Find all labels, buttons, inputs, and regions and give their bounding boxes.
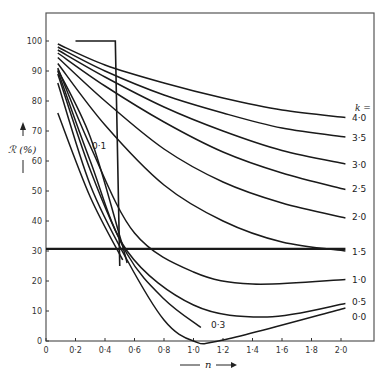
x-tick-label: 1·4 xyxy=(246,346,259,355)
x-tick-label: 0·6 xyxy=(128,346,141,355)
x-tick-label: 2·0 xyxy=(335,346,348,355)
curve-label-k01: 0·1 xyxy=(92,141,106,151)
curve-label-k00: 0·0 xyxy=(352,312,367,322)
x-tick-label: 0·2 xyxy=(69,346,82,355)
curve-label-k25: 2·5 xyxy=(352,184,366,194)
curve-k-1-0 xyxy=(58,68,346,284)
curve-labels: k = 4·0 3·5 3·0 2·5 2·0 1·5 1·0 0·5 0·0 … xyxy=(92,103,371,330)
curve-label-k10: 1·0 xyxy=(352,275,367,285)
x-axis-title: n xyxy=(205,359,211,370)
y-axis-arrow-icon xyxy=(20,122,26,130)
x-tick-label: 1·6 xyxy=(276,346,289,355)
curve-label-k35: 3·5 xyxy=(352,133,366,143)
k-header-label: k = xyxy=(355,103,371,113)
x-tick-label: 0·8 xyxy=(158,346,171,355)
x-tick-label: 0·4 xyxy=(99,346,112,355)
curve-group xyxy=(58,44,346,344)
x-tick-label: 0 xyxy=(43,346,48,355)
x-axis-arrow-icon xyxy=(231,362,237,368)
x-tick-label: 1·0 xyxy=(187,346,200,355)
curve-k-1-5 xyxy=(58,64,346,252)
y-tick-label: 20 xyxy=(32,277,42,286)
curve-label-k30: 3·0 xyxy=(352,160,367,170)
x-tick-label: 1·2 xyxy=(217,346,230,355)
chart-figure: 0 0·2 0·4 0·6 0·8 1·0 1·2 1·4 1·6 1·8 2·… xyxy=(0,0,388,374)
curve-k-0-5 xyxy=(58,71,346,317)
y-tick-label: 50 xyxy=(32,187,42,196)
curve-label-k20: 2·0 xyxy=(352,212,367,222)
curve-label-k15: 1·5 xyxy=(352,247,366,257)
y-tick-label: 90 xyxy=(32,67,42,76)
curve-label-k03: 0·3 xyxy=(211,320,225,330)
y-tick-label: 100 xyxy=(27,37,42,46)
y-tick-label: 40 xyxy=(32,217,42,226)
annotation-lines xyxy=(46,41,345,266)
y-tick-label: 0 xyxy=(37,337,42,346)
x-axis-title-group: n xyxy=(180,359,237,370)
y-tick-label: 10 xyxy=(32,307,42,316)
y-axis-title: ℛ (%) xyxy=(8,144,37,155)
x-tick-label: 1·8 xyxy=(305,346,318,355)
curve-label-k40: 4·0 xyxy=(352,113,367,123)
y-tick-label: 70 xyxy=(32,127,42,136)
y-tick-labels: 0 10 20 30 40 50 60 70 80 90 100 xyxy=(27,37,42,346)
y-tick-label: 30 xyxy=(32,247,42,256)
y-tick-label: 60 xyxy=(32,157,42,166)
y-tick-label: 80 xyxy=(32,97,42,106)
curve-label-k05: 0·5 xyxy=(352,297,366,307)
x-tick-labels: 0 0·2 0·4 0·6 0·8 1·0 1·2 1·4 1·6 1·8 2·… xyxy=(43,346,347,355)
